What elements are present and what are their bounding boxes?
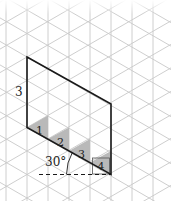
grid-line (0, 21, 171, 120)
grid-line (0, 0, 171, 96)
angle-arc (67, 152, 73, 174)
triangle-label-2: 2 (57, 136, 64, 149)
triangle-label-1: 1 (36, 124, 43, 137)
grid-line (0, 18, 171, 117)
grid-line (0, 91, 171, 190)
grid-line (0, 159, 171, 201)
grid-line (0, 88, 171, 187)
triangular-grid (0, 0, 171, 201)
grid-line (0, 44, 171, 143)
angle-label: 30° (45, 155, 66, 169)
grid-line (0, 162, 171, 201)
triangle-label-4: 4 (98, 160, 105, 173)
side-length-label: 3 (15, 85, 23, 99)
triangle-label-3: 3 (78, 148, 85, 161)
top-fade (0, 0, 171, 14)
isometric-diagram: 3 1 2 3 4 30° (0, 0, 171, 201)
grid-line (0, 41, 171, 140)
